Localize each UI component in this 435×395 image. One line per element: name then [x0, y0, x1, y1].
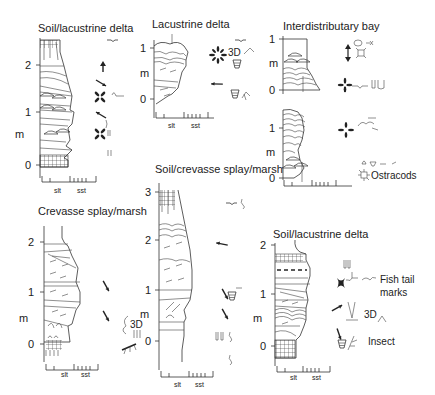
unit-label: m: [266, 146, 275, 158]
annotation-3d: 3D: [130, 319, 143, 330]
wave-trace-icon: [226, 203, 237, 205]
arrow-icon: [332, 302, 342, 314]
worm-trace-icon: [244, 48, 254, 54]
insect-trace-icon: [242, 92, 250, 100]
unit-label: m: [140, 67, 149, 79]
tick-label: 2: [25, 59, 31, 71]
panel-title: Soil/lacustrine delta: [38, 22, 134, 34]
x-label-slt: slt: [61, 371, 68, 378]
stratigraphic-sections-figure: Soil/lacustrine delta 2 1 0 m slt sst: [0, 0, 435, 395]
arrow-icon: [333, 328, 345, 339]
burrow-icon: [216, 332, 232, 342]
burrow-icon: [106, 120, 111, 156]
x-label-slt: slt: [168, 122, 175, 129]
tick-label: 3: [145, 186, 151, 198]
arrow-icon: [216, 239, 227, 248]
x-label-slt: slt: [174, 381, 181, 388]
tick-label: 1: [269, 122, 275, 134]
panel-soil-lacustrine-delta-bottom: Soil/lacustrine delta 2 1 0 m slt sst Fi…: [253, 228, 414, 381]
annotation-3d: 3D: [364, 309, 377, 320]
tick-label: 1: [260, 288, 266, 300]
unit-label: m: [253, 312, 262, 324]
cup-trace-icon: [338, 340, 346, 348]
worm-trace-icon: [378, 316, 386, 322]
v-burrow-icon: [346, 302, 358, 320]
x-label-sst: sst: [81, 371, 90, 378]
x-label-sst: sst: [195, 381, 204, 388]
cup-trace-icon: [233, 60, 241, 68]
tick-label: 2: [145, 234, 151, 246]
x-label-sst: sst: [191, 122, 200, 129]
panel-title: Lacustrine delta: [152, 18, 231, 30]
annotation-ostracods: Ostracods: [371, 170, 417, 181]
insect-icon: [348, 336, 357, 350]
s-trace-icon: [241, 199, 244, 209]
worm-trace-icon: [112, 93, 124, 96]
fish-tail-marks-icon: [362, 277, 376, 280]
annotation-marks: marks: [380, 287, 407, 298]
tick-label: 0: [28, 338, 34, 350]
cross-fossil-icon: [94, 128, 106, 140]
panel-interdistributary-bay: Interdistributary bay 1 0 m 1 0 m: [266, 20, 417, 186]
tick-label: 0: [269, 84, 275, 96]
cross-fossil-icon: [94, 91, 106, 103]
cup-trace-icon: [228, 292, 236, 300]
arrow-icon: [100, 281, 112, 291]
wave-trace-icon: [235, 40, 246, 42]
unit-label: m: [15, 128, 24, 140]
panel-crevasse-splay-marsh: Crevasse splay/marsh 2 1 0 m slt sst 3D: [19, 205, 147, 378]
annotation-fish-tail: Fish tail: [380, 274, 414, 285]
arrow-icon: [100, 311, 112, 321]
tick-label: 0: [25, 159, 31, 171]
ostracod-shell-icon: [354, 40, 373, 46]
tick-label: 2: [28, 236, 34, 248]
burrow-icon: [344, 260, 350, 268]
cup-trace-icon: [231, 90, 239, 98]
tick-label: 1: [140, 42, 146, 54]
panel-title: Soil/lacustrine delta: [273, 228, 369, 240]
root-trace-icon: [123, 316, 128, 334]
fish-tail-trace-icon: [346, 272, 358, 281]
tick-label: 0: [260, 340, 266, 352]
panel-soil-crevasse-splay-marsh: Soil/crevasse splay/marsh 3 2 1 0 m slt …: [140, 163, 283, 388]
ostracod-star-icon: [356, 48, 366, 58]
bivalve-arrow-icon: [345, 44, 351, 62]
tick-label: 1: [145, 284, 151, 296]
panel-title: Interdistributary bay: [283, 20, 380, 32]
panel-title: Crevasse splay/marsh: [38, 205, 147, 217]
star-fossil-icon: [209, 46, 227, 64]
tick-label: 2: [260, 239, 266, 251]
cross-fossil-icon: [336, 76, 353, 93]
burrow-icon: [372, 80, 384, 89]
x-fossil-icon: [337, 278, 345, 288]
x-label-slt: slt: [290, 374, 297, 381]
wave-trace-icon: [352, 86, 368, 88]
arrow-icon: [96, 112, 106, 118]
panel-soil-lacustrine-delta-top: Soil/lacustrine delta 2 1 0 m slt sst: [15, 22, 134, 194]
fish-trace-icon: [358, 118, 378, 130]
unit-label: m: [140, 308, 149, 320]
tick-label: 1: [25, 106, 31, 118]
tick-label: 1: [28, 286, 34, 298]
arrow-icon: [219, 309, 231, 319]
tick-label: 0: [145, 335, 151, 347]
panel-lacustrine-delta: Lacustrine delta 1 0 m slt sst 3D: [140, 18, 254, 129]
unit-label: m: [269, 57, 278, 69]
tick-label: 1: [269, 33, 275, 45]
unit-label: m: [19, 312, 28, 324]
cross-fossil-icon: [338, 122, 354, 138]
arrow-up-icon: [100, 61, 106, 72]
arrow-icon: [96, 80, 106, 86]
s-trace-icon: [229, 355, 232, 365]
annotation-insect: Insect: [368, 336, 395, 347]
panel-title: Soil/crevasse splay/marsh: [155, 163, 283, 175]
annotation-3d: 3D: [228, 47, 241, 58]
tick-label: 0: [140, 93, 146, 105]
wave-trace-icon: [107, 40, 118, 42]
root-branch-icon: [122, 344, 136, 354]
x-label-slt: slt: [54, 187, 61, 194]
x-label-sst: sst: [312, 374, 321, 381]
x-label-sst: sst: [77, 187, 86, 194]
arrow-icon: [211, 79, 223, 89]
burrow-icon: [134, 330, 140, 338]
